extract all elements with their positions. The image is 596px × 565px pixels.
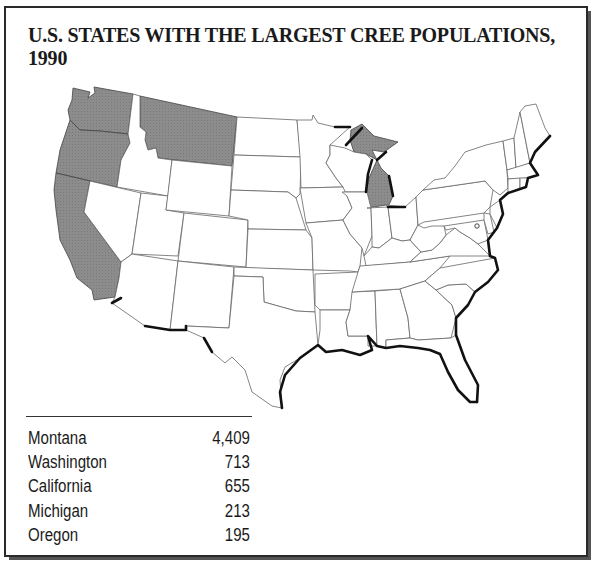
legend-row: Montana 4,409 — [28, 426, 250, 450]
legend-state: Montana — [28, 426, 87, 450]
legend-value: 195 — [225, 523, 250, 547]
legend-row: Oregon 195 — [28, 523, 250, 547]
legend-value: 713 — [225, 450, 250, 474]
us-map — [0, 0, 596, 410]
legend-row: Michigan 213 — [28, 499, 250, 523]
legend-row: California 655 — [28, 474, 250, 498]
legend-state: Washington — [28, 450, 107, 474]
state-washington — [68, 87, 133, 134]
legend-state: California — [28, 474, 92, 498]
state-colorado — [178, 213, 248, 267]
legend-value: 213 — [225, 499, 250, 523]
legend-value: 655 — [225, 474, 250, 498]
state-north-dakota — [234, 117, 301, 157]
state-kansas — [246, 229, 313, 270]
legend-state: Michigan — [28, 499, 88, 523]
state-arizona — [112, 254, 178, 330]
state-new-mexico — [170, 261, 234, 330]
population-legend: Montana 4,409 Washington 713 California … — [28, 426, 219, 547]
legend-divider — [26, 416, 252, 417]
legend-row: Washington 713 — [28, 450, 250, 474]
legend-state: Oregon — [28, 523, 78, 547]
washington-dc-marker — [475, 224, 479, 228]
legend-value: 4,409 — [212, 426, 250, 450]
state-wyoming — [166, 160, 232, 216]
